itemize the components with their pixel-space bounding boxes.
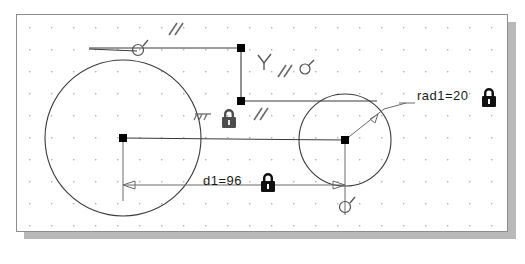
d1-dimension-label[interactable]: d1=96	[203, 173, 242, 188]
upper-vertex-point[interactable]	[237, 44, 245, 52]
mid-vertex-point[interactable]	[237, 97, 245, 105]
center-link-line[interactable]	[123, 138, 345, 140]
parallel-top-icon[interactable]	[169, 23, 183, 35]
parallel-lower-icon[interactable]	[254, 108, 268, 120]
coincident-right-icon[interactable]	[300, 60, 314, 74]
lock-icon-d1[interactable]	[261, 173, 275, 192]
lock-icon-rad1[interactable]	[482, 88, 496, 107]
rad1-dimension-label[interactable]: rad1=20	[417, 88, 469, 103]
right-center-point[interactable]	[341, 136, 349, 144]
coincident-bottom-icon[interactable]	[340, 197, 356, 213]
sketch-canvas[interactable]: d1=96 rad1=20	[16, 14, 508, 232]
lock-icon-fix[interactable]	[222, 109, 236, 128]
perpendicular-icon[interactable]	[258, 54, 271, 70]
cad-sketch-screenshot: d1=96 rad1=20	[0, 0, 525, 264]
ground-fix-icon[interactable]	[194, 114, 211, 120]
parallel-mid-icon[interactable]	[278, 65, 292, 77]
left-center-point[interactable]	[119, 134, 127, 142]
rad1-leader-shoulder	[384, 103, 406, 109]
sketch-vector-layer	[17, 15, 507, 231]
grid-dots	[29, 27, 492, 226]
